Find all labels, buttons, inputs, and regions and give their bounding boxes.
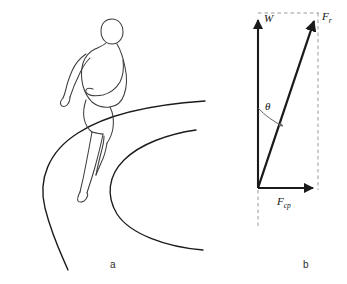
resultant-force-subscript: r <box>329 16 332 25</box>
runner-near-hand <box>86 88 93 95</box>
track-group <box>43 101 205 270</box>
runner-torso <box>82 43 127 107</box>
runner-far-arm <box>63 54 86 98</box>
runner-far-forearm <box>61 97 70 107</box>
runner-knee-crease <box>92 132 103 134</box>
centripetal-force-label: Fcp <box>277 195 291 210</box>
panel-a-caption: a <box>110 259 116 270</box>
weight-vector-label: W <box>264 12 273 24</box>
runner-front-foot <box>78 192 88 202</box>
track-inner-curve <box>110 130 203 250</box>
runner-hips <box>84 100 92 132</box>
runner-far-arm-inner <box>70 58 90 97</box>
resultant-force-label: Fr <box>322 10 332 25</box>
panel-b-caption: b <box>303 259 309 270</box>
figure-svg <box>0 0 347 284</box>
runner-near-arm <box>90 60 123 96</box>
runner-head <box>101 19 123 44</box>
runner-shorts <box>107 107 113 143</box>
runner-figure <box>61 19 127 202</box>
angle-theta-label: θ <box>265 100 270 112</box>
track-outer-curve <box>43 101 205 270</box>
runner-rear-leg-inner <box>96 136 104 175</box>
centripetal-force-subscript: cp <box>284 201 291 210</box>
figure-container: W Fr Fcp θ a b <box>0 0 347 284</box>
